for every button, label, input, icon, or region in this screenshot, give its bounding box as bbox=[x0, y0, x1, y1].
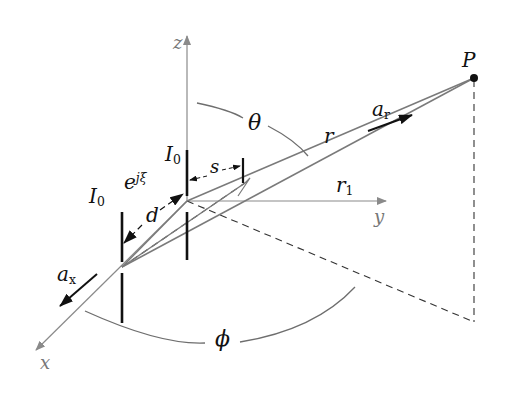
point-p-dot bbox=[470, 74, 478, 82]
dipole-array-diagram: z y x P r r1 ar ax θ ϕ d s I0 I0 ejξ bbox=[0, 0, 511, 394]
s-label: s bbox=[210, 158, 219, 176]
phi-arc bbox=[85, 311, 205, 343]
ray-r1 bbox=[122, 78, 474, 267]
phase-sup: jξ bbox=[136, 170, 147, 185]
point-p-label: P bbox=[462, 50, 475, 70]
d-label: d bbox=[146, 205, 159, 225]
current-left-base: I bbox=[89, 184, 97, 208]
diagram-graphics bbox=[0, 0, 511, 394]
current-top-label: I0 bbox=[165, 144, 181, 167]
ar-sub: r bbox=[384, 107, 390, 122]
r-label: r bbox=[324, 126, 334, 146]
r1-label: r1 bbox=[336, 175, 353, 198]
r1-base: r bbox=[336, 173, 346, 197]
r1-sub: 1 bbox=[346, 183, 354, 198]
theta-arc bbox=[197, 103, 243, 118]
ar-base: a bbox=[372, 97, 384, 121]
current-top-base: I bbox=[165, 142, 173, 166]
current-left-label: I0 bbox=[89, 186, 105, 209]
ax-label: ax bbox=[57, 264, 76, 287]
ar-label: ar bbox=[372, 99, 390, 122]
x-axis-label: x bbox=[40, 354, 50, 372]
ray-lines bbox=[122, 78, 474, 267]
phase-base: e bbox=[124, 170, 136, 194]
z-axis-label: z bbox=[173, 34, 182, 52]
ax-base: a bbox=[57, 262, 69, 286]
y-axis-label: y bbox=[374, 208, 384, 226]
phase-label: ejξ bbox=[124, 172, 147, 192]
ax-sub: x bbox=[69, 272, 76, 287]
phi-label: ϕ bbox=[215, 328, 230, 350]
current-top-sub: 0 bbox=[173, 152, 181, 167]
theta-label: θ bbox=[248, 112, 261, 134]
current-left-sub: 0 bbox=[97, 194, 105, 209]
